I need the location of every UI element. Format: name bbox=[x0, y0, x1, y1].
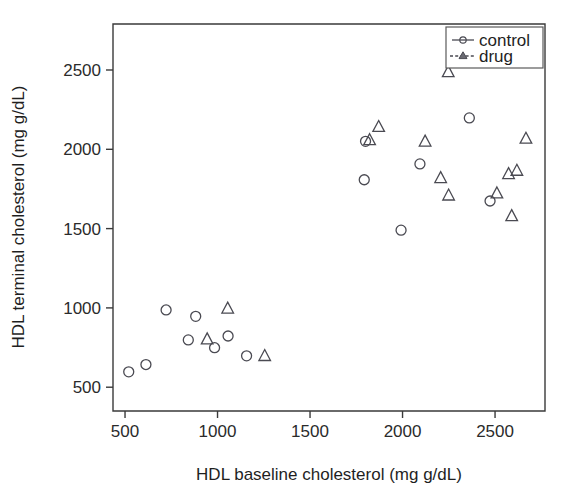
x-axis-title: HDL baseline cholesterol (mg g/dL) bbox=[196, 465, 462, 484]
x-axis-ticks bbox=[125, 411, 495, 418]
circle-marker-icon bbox=[464, 113, 474, 123]
x-tick-label: 1500 bbox=[291, 422, 329, 441]
circle-marker-icon bbox=[124, 367, 134, 377]
plot-canvas: 5001000150020002500 5001000150020002500 … bbox=[0, 0, 573, 502]
triangle-marker-icon bbox=[259, 350, 271, 361]
legend-label-drug: drug bbox=[479, 47, 513, 66]
y-tick-label: 1500 bbox=[63, 220, 101, 239]
plot-frame bbox=[113, 24, 545, 411]
x-tick-label: 1000 bbox=[199, 422, 237, 441]
circle-marker-icon bbox=[242, 351, 252, 361]
triangle-marker-icon bbox=[222, 302, 234, 313]
scatter-plot-figure: 5001000150020002500 5001000150020002500 … bbox=[0, 0, 573, 502]
triangle-marker-icon bbox=[373, 121, 385, 132]
y-tick-label: 1000 bbox=[63, 299, 101, 318]
y-axis-title: HDL terminal cholesterol (mg g/dL) bbox=[9, 86, 28, 349]
x-tick-label: 500 bbox=[111, 422, 139, 441]
series-control-points bbox=[124, 113, 495, 377]
circle-marker-icon bbox=[141, 360, 151, 370]
circle-marker-icon bbox=[191, 311, 201, 321]
y-axis-ticks bbox=[106, 70, 113, 387]
x-axis-tick-labels: 5001000150020002500 bbox=[111, 422, 514, 441]
circle-marker-icon bbox=[396, 225, 406, 235]
series-drug-points bbox=[201, 66, 531, 361]
circle-marker-icon bbox=[359, 175, 369, 185]
circle-marker-icon bbox=[223, 331, 233, 341]
triangle-marker-icon bbox=[443, 189, 455, 200]
triangle-marker-icon bbox=[520, 132, 532, 143]
circle-marker-icon bbox=[415, 159, 425, 169]
circle-marker-icon bbox=[183, 335, 193, 345]
triangle-marker-icon bbox=[201, 333, 213, 344]
x-tick-label: 2000 bbox=[384, 422, 422, 441]
y-tick-label: 500 bbox=[73, 378, 101, 397]
circle-marker-icon bbox=[161, 305, 171, 315]
triangle-marker-icon bbox=[419, 135, 431, 146]
x-tick-label: 2500 bbox=[476, 422, 514, 441]
triangle-marker-icon bbox=[511, 164, 523, 175]
triangle-marker-icon bbox=[506, 210, 518, 221]
y-tick-label: 2500 bbox=[63, 61, 101, 80]
legend: control drug bbox=[446, 27, 543, 68]
y-axis-tick-labels: 5001000150020002500 bbox=[63, 61, 101, 397]
y-tick-label: 2000 bbox=[63, 140, 101, 159]
triangle-marker-icon bbox=[435, 172, 447, 183]
